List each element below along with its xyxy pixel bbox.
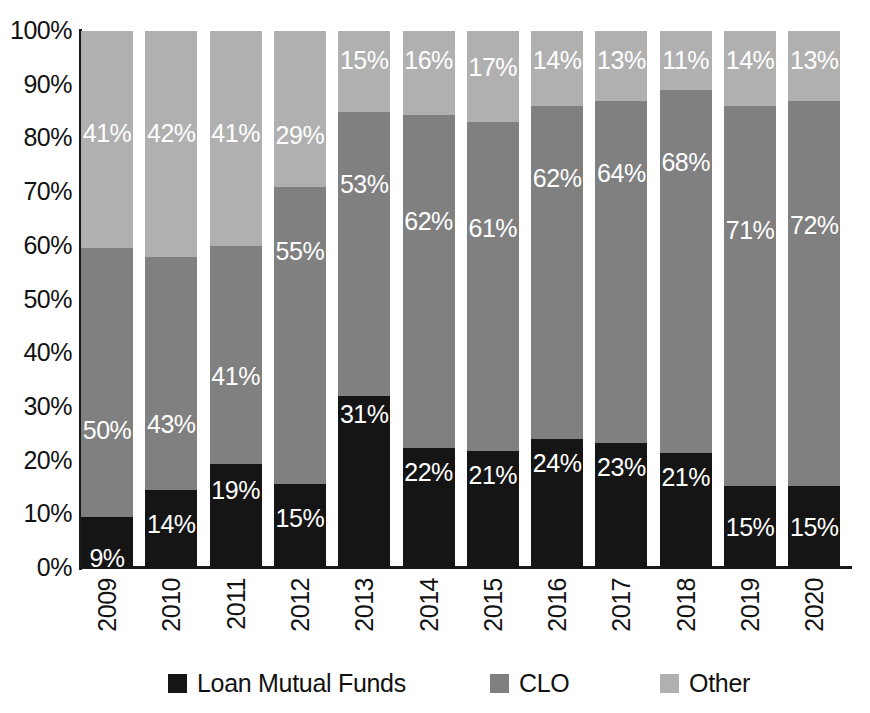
x-axis-tick-label: 2010 [159, 578, 184, 658]
legend-swatch-black [168, 674, 187, 693]
x-axis-tick-label: 2019 [738, 578, 763, 658]
stacked-bar-chart: 100%90%80%70%60%50%40%30%20%10%0% 41%50%… [0, 0, 870, 713]
x-axis-tick-label: 2014 [417, 578, 442, 658]
x-axis-tick-label: 2012 [288, 578, 313, 658]
chart-legend: Loan Mutual FundsCLOOther [0, 666, 870, 700]
x-axis-tick-label: 2016 [545, 578, 570, 658]
legend-label: Other [689, 671, 750, 696]
legend-swatch-gray [490, 674, 509, 693]
x-axis-tick-label: 2011 [224, 578, 249, 658]
legend-label: CLO [519, 671, 570, 696]
legend-item[interactable]: CLO [490, 666, 570, 700]
x-axis-tick-label: 2020 [802, 578, 827, 658]
x-axis-tick-label: 2013 [352, 578, 377, 658]
x-axis-tick-label: 2017 [609, 578, 634, 658]
x-axis-tick-labels: 2009201020112012201320142015201620172018… [0, 0, 870, 713]
x-axis-tick-label: 2015 [481, 578, 506, 658]
legend-item[interactable]: Loan Mutual Funds [168, 666, 406, 700]
legend-swatch-lightgray [660, 674, 679, 693]
x-axis-tick-label: 2009 [95, 578, 120, 658]
x-axis-tick-label: 2018 [674, 578, 699, 658]
legend-item[interactable]: Other [660, 666, 750, 700]
legend-label: Loan Mutual Funds [197, 671, 406, 696]
